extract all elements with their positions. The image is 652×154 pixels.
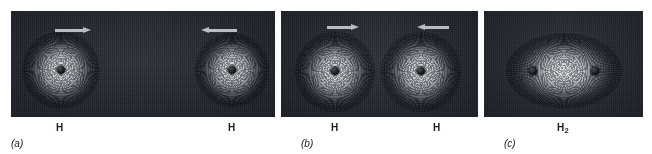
arrow-head (351, 24, 359, 30)
atom-label-subscript: 2 (564, 126, 568, 135)
atom-label-text: H (433, 122, 440, 133)
panel-caption-b: (b) (301, 138, 313, 149)
arrow-head (417, 24, 425, 30)
panel-a (11, 11, 275, 117)
atom-label-text: H (56, 122, 63, 133)
nucleus-a-left (57, 66, 65, 74)
panel-caption-a: (a) (11, 138, 23, 149)
arrow-shaft (424, 26, 449, 29)
atom-label-c-molecule: H2 (557, 122, 569, 133)
arrow-left-icon (417, 24, 449, 31)
arrow-head (83, 27, 91, 33)
nucleus-c-left (529, 67, 537, 75)
arrow-shaft (327, 26, 352, 29)
atom-label-a-left: H (56, 122, 63, 133)
nucleus-c-right (591, 67, 599, 75)
cloud-speckle (506, 33, 622, 109)
nucleus-b-left (331, 67, 339, 75)
arrow-right-icon (55, 27, 91, 34)
arrow-right-icon (327, 24, 359, 31)
atom-label-b-left: H (331, 122, 338, 133)
atom-label-text: H (331, 122, 338, 133)
nucleus-a-right (228, 66, 236, 74)
nucleus-b-right (417, 67, 425, 75)
atom-label-b-right: H (433, 122, 440, 133)
figure-hydrogen-bond-formation: H H (a) H H (b) (0, 0, 652, 154)
arrow-shaft (208, 29, 237, 32)
arrow-left-icon (201, 27, 237, 34)
panel-b (281, 11, 478, 117)
arrow-shaft (55, 29, 84, 32)
atom-label-text: H (228, 122, 235, 133)
panel-caption-c: (c) (504, 138, 516, 149)
electron-cloud-c-molecule (506, 33, 622, 109)
panel-c (484, 11, 643, 117)
arrow-head (201, 27, 209, 33)
atom-label-a-right: H (228, 122, 235, 133)
